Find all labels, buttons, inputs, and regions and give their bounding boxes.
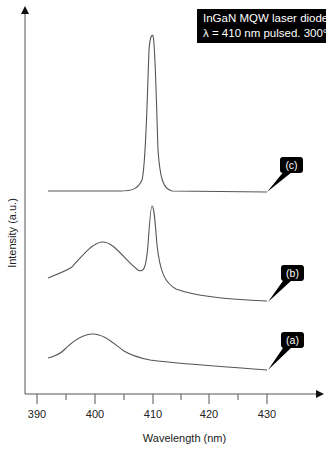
curve-a bbox=[48, 334, 267, 370]
curve-c bbox=[48, 35, 267, 192]
callout-c: (c) bbox=[280, 157, 303, 173]
x-tick-label: 420 bbox=[194, 408, 224, 420]
callout-b: (b) bbox=[281, 265, 304, 281]
legend-line-1: InGaN MQW laser diode bbox=[203, 11, 326, 26]
curve-b bbox=[48, 206, 267, 301]
y-axis-label: Intensity (a.u.) bbox=[6, 183, 18, 283]
x-axis-label: Wavelength (nm) bbox=[0, 432, 329, 444]
callout-b-pointer bbox=[268, 278, 292, 302]
x-tick-label: 410 bbox=[138, 408, 168, 420]
legend-line-2: λ = 410 nm pulsed. 300°K bbox=[203, 26, 326, 41]
x-tick-label: 400 bbox=[80, 408, 110, 420]
spectrum-chart bbox=[0, 0, 329, 451]
callout-a: (a) bbox=[281, 332, 304, 348]
x-ticks bbox=[37, 394, 267, 404]
callout-c-pointer bbox=[267, 170, 292, 192]
chart-legend-box: InGaN MQW laser diode λ = 410 nm pulsed.… bbox=[197, 9, 326, 43]
callout-a-pointer bbox=[268, 345, 292, 370]
x-tick-label: 430 bbox=[252, 408, 282, 420]
x-tick-label: 390 bbox=[22, 408, 52, 420]
